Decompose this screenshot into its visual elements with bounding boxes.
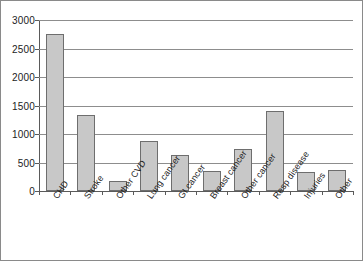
x-tick-mark	[227, 191, 228, 195]
x-axis-tick-labels: CHDStrokeOther CVDLung cancerGI cancerBr…	[1, 1, 363, 261]
y-tick-mark	[35, 77, 39, 78]
y-tick-mark	[35, 106, 39, 107]
x-tick-mark	[165, 191, 166, 195]
y-tick-mark	[35, 163, 39, 164]
x-tick-mark	[290, 191, 291, 195]
y-tick-mark	[35, 134, 39, 135]
x-tick-label: Injuries	[302, 171, 327, 201]
x-tick-mark	[353, 191, 354, 195]
x-tick-label: Stroke	[82, 173, 105, 201]
x-tick-mark	[39, 191, 40, 195]
x-tick-label: GI cancer	[176, 162, 207, 200]
y-tick-mark	[35, 20, 39, 21]
bar-chart: 300025002000150010005000 CHDStrokeOther …	[0, 0, 363, 261]
x-tick-label: Other	[333, 176, 354, 201]
x-tick-mark	[322, 191, 323, 195]
x-tick-mark	[196, 191, 197, 195]
x-tick-mark	[70, 191, 71, 195]
x-tick-mark	[102, 191, 103, 195]
x-tick-mark	[259, 191, 260, 195]
x-tick-mark	[133, 191, 134, 195]
x-tick-label: CHD	[51, 179, 71, 201]
y-tick-mark	[35, 49, 39, 50]
x-tick-label: Other CVD	[114, 158, 148, 201]
